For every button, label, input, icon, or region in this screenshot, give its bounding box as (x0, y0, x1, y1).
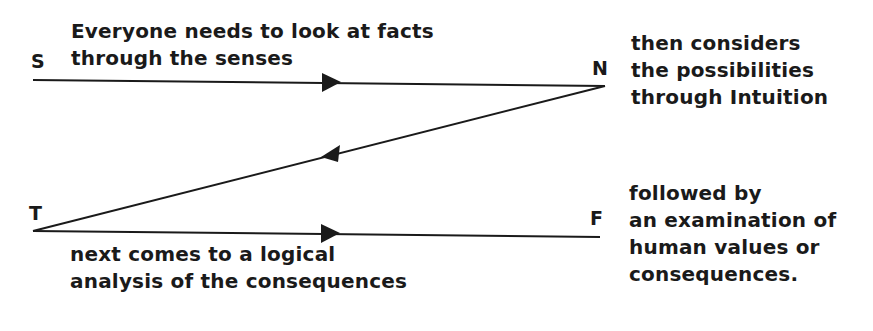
caption-line: through Intuition (631, 84, 828, 111)
edge-t-to-f (33, 231, 600, 237)
caption-intuition: then considers the possibilities through… (631, 30, 828, 111)
caption-line: an examination of (629, 207, 836, 234)
node-label-t: T (29, 204, 42, 223)
caption-line: followed by (629, 180, 836, 207)
caption-line: human values or (629, 234, 836, 261)
edge-s-to-n (33, 80, 605, 86)
caption-line: then considers (631, 30, 828, 57)
caption-line: next comes to a logical (70, 241, 407, 268)
node-label-f: F (590, 209, 603, 228)
caption-line: consequences. (629, 261, 836, 288)
caption-thinking: next comes to a logical analysis of the … (70, 241, 407, 295)
caption-line: analysis of the consequences (70, 268, 407, 295)
node-label-s: S (31, 52, 45, 71)
edge-n-to-t (33, 86, 605, 231)
arrow-left-icon (321, 145, 340, 162)
caption-line: the possibilities (631, 57, 828, 84)
caption-line: through the senses (71, 45, 434, 72)
caption-feeling: followed by an examination of human valu… (629, 180, 836, 288)
arrow-right-icon (322, 73, 341, 92)
caption-line: Everyone needs to look at facts (71, 18, 434, 45)
node-label-n: N (592, 59, 608, 78)
caption-sensing: Everyone needs to look at facts through … (71, 18, 434, 72)
